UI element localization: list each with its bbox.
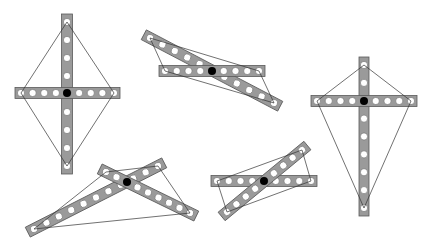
bar-hole — [225, 177, 232, 184]
bar-hole — [232, 67, 239, 74]
bar-hole — [372, 97, 379, 104]
bar-hole — [220, 67, 227, 74]
pivot-dot — [260, 177, 268, 185]
figure-flat-crossed — [141, 30, 283, 111]
bar-hole — [185, 67, 192, 74]
figure-kite-symmetric — [15, 14, 120, 174]
figure-kite-elongated — [311, 57, 417, 216]
pivot-dot — [208, 67, 216, 75]
linkage-diagram — [0, 0, 433, 246]
bar-hole — [360, 151, 367, 158]
figure-scissor-wide — [25, 158, 198, 237]
bar-hole — [99, 89, 106, 96]
perforated-bar — [359, 57, 369, 216]
bar-hole — [325, 97, 332, 104]
bar-hole — [52, 89, 59, 96]
bar-hole — [76, 89, 83, 96]
bar-hole — [360, 169, 367, 176]
bar-hole — [360, 187, 367, 194]
figures-layer — [15, 14, 417, 237]
bar-hole — [296, 177, 303, 184]
bar-hole — [384, 97, 391, 104]
bar-hole — [360, 79, 367, 86]
bar-hole — [63, 144, 70, 151]
bar-hole — [197, 67, 204, 74]
bar-hole — [349, 97, 356, 104]
figure-tilted-crossed — [211, 141, 317, 220]
bar-hole — [284, 177, 291, 184]
bar-hole — [360, 115, 367, 122]
bar-hole — [63, 108, 70, 115]
bar-hole — [63, 126, 70, 133]
bar-hole — [337, 97, 344, 104]
bar-hole — [360, 133, 367, 140]
bar-hole — [41, 89, 48, 96]
bar-hole — [63, 36, 70, 43]
bar-hole — [29, 89, 36, 96]
bar-hole — [87, 89, 94, 96]
pivot-dot — [63, 89, 71, 97]
bar-hole — [63, 72, 70, 79]
bar-hole — [396, 97, 403, 104]
bar-hole — [237, 177, 244, 184]
pivot-dot — [360, 97, 368, 105]
pivot-dot — [123, 178, 131, 186]
bar-hole — [63, 54, 70, 61]
